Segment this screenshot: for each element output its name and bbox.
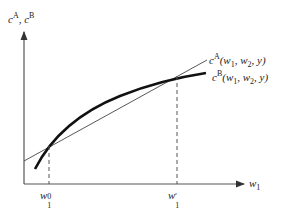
curve-cB bbox=[35, 73, 206, 169]
x-axis-label: w1 bbox=[249, 178, 260, 192]
diagram-canvas bbox=[0, 0, 284, 214]
curve-label-cB: cB(w1, w2, y) bbox=[212, 70, 268, 86]
curve-label-cA: cA(w1, w2, y) bbox=[209, 53, 266, 69]
tick-w1-0: w01 bbox=[40, 190, 53, 201]
y-axis-label: cA, cB bbox=[8, 12, 34, 25]
tick-w1-prime: w'1 bbox=[168, 190, 181, 201]
